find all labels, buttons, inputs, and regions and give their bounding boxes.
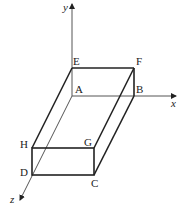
vertex-c: C (91, 178, 98, 189)
x-axis-label: x (171, 98, 176, 109)
vertex-b: B (136, 84, 143, 95)
vertex-e: E (73, 56, 80, 67)
vertex-f: F (136, 56, 142, 67)
vertex-g: G (84, 137, 92, 148)
diagram-canvas: y x z E F A B H G D C (0, 0, 184, 206)
y-axis-label: y (63, 2, 68, 13)
z-axis-label: z (10, 194, 14, 205)
vertex-h: H (20, 139, 28, 150)
vertex-a: A (75, 84, 83, 95)
vertex-d: D (20, 167, 28, 178)
